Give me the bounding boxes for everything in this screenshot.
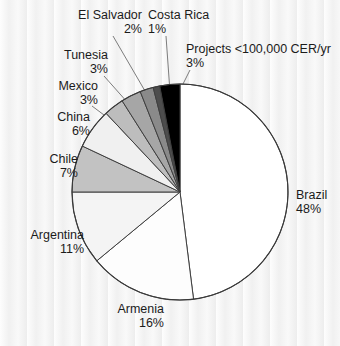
slice-label-argentina-name: Argentina [30, 228, 84, 242]
slice-label-tunesia-pct: 3% [48, 62, 108, 76]
slice-label-armenia: Armenia 16% [90, 302, 164, 330]
leader-line-costa-rica [166, 36, 170, 92]
slice-label-chile-name: Chile [50, 152, 79, 166]
slice-label-mexico: Mexico 3% [38, 79, 98, 107]
slice-label-china-pct: 6% [32, 124, 90, 138]
pie-slice [180, 84, 288, 299]
slice-label-armenia-name: Armenia [117, 302, 164, 316]
slice-label-mexico-name: Mexico [58, 79, 98, 93]
slice-label-costa-rica-pct: 1% [148, 22, 214, 36]
slice-label-argentina: Argentina 11% [8, 228, 84, 256]
slice-label-argentina-pct: 11% [8, 242, 84, 256]
slice-label-projects-name: Projects <100,000 CER/yr [186, 42, 331, 56]
slice-label-brazil-name: Brazil [296, 188, 327, 202]
slice-label-china-name: China [57, 110, 90, 124]
slice-label-el-salvador-name: El Salvador [78, 8, 142, 22]
slice-label-armenia-pct: 16% [90, 316, 164, 330]
slice-label-mexico-pct: 3% [38, 93, 98, 107]
slice-label-el-salvador-pct: 2% [60, 22, 142, 36]
slice-label-brazil-pct: 48% [296, 202, 340, 216]
slice-label-projects: Projects <100,000 CER/yr 3% [186, 42, 336, 70]
slice-label-costa-rica: Costa Rica 1% [148, 8, 214, 36]
slice-label-chile-pct: 7% [22, 166, 78, 180]
pie-chart-figure: El Salvador 2% Costa Rica 1% Projects <1… [0, 0, 340, 346]
slice-label-tunesia: Tunesia 3% [48, 48, 108, 76]
slice-label-el-salvador: El Salvador 2% [60, 8, 142, 36]
slice-label-tunesia-name: Tunesia [64, 48, 108, 62]
slice-label-brazil: Brazil 48% [296, 188, 340, 216]
pie-slices-group [72, 84, 288, 300]
slice-label-china: China 6% [32, 110, 90, 138]
slice-label-chile: Chile 7% [22, 152, 78, 180]
slice-label-projects-pct: 3% [186, 56, 336, 70]
slice-label-costa-rica-name: Costa Rica [148, 8, 209, 22]
